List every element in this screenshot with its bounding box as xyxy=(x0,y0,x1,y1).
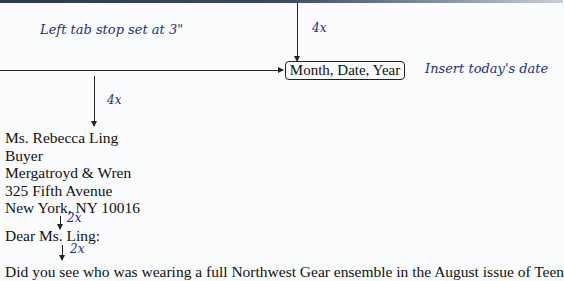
date-instruction: Insert today's date xyxy=(425,61,548,76)
after-address-spacing-label: 2x xyxy=(67,211,81,225)
after-date-spacing-label: 4x xyxy=(107,93,121,107)
tab-stop-label: Left tab stop set at 3" xyxy=(40,22,183,37)
recipient-street: 325 Fifth Avenue xyxy=(5,182,112,200)
recipient-title: Buyer xyxy=(5,147,43,165)
top-spacing-label: 4x xyxy=(312,21,326,35)
salutation: Dear Ms. Ling: xyxy=(5,227,100,245)
tab-stop-arrow xyxy=(0,70,283,71)
recipient-name: Ms. Rebecca Ling xyxy=(5,129,118,147)
top-border-bar xyxy=(0,0,563,3)
after-salutation-spacing-label: 2x xyxy=(70,242,84,256)
date-placeholder: Month, Date, Year xyxy=(285,61,405,80)
recipient-company: Mergatroyd & Wren xyxy=(5,164,131,182)
body-first-line: Did you see who was wearing a full North… xyxy=(5,263,564,281)
after-salutation-spacing-arrow xyxy=(62,245,63,260)
after-date-spacing-arrow xyxy=(94,76,95,126)
top-spacing-arrow xyxy=(297,3,298,61)
